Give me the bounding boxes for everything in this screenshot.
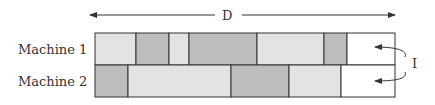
machine-row: Machine 2 xyxy=(18,65,395,97)
job-block xyxy=(189,33,257,65)
idle-block xyxy=(347,33,395,65)
machine-label: Machine 2 xyxy=(18,74,87,89)
job-block xyxy=(257,33,324,65)
machine-row: Machine 1 xyxy=(18,33,395,65)
span-arrow-d: D xyxy=(90,8,395,23)
job-block xyxy=(289,65,341,97)
job-block xyxy=(324,33,347,65)
job-block xyxy=(169,33,189,65)
idle-label: I xyxy=(412,56,417,71)
job-block xyxy=(231,65,289,97)
job-block xyxy=(128,65,231,97)
schedule-diagram: D Machine 1Machine 2 I xyxy=(0,0,435,105)
job-block xyxy=(95,33,136,65)
job-block xyxy=(95,65,128,97)
machine-label: Machine 1 xyxy=(18,42,87,57)
span-label: D xyxy=(222,8,232,23)
job-block xyxy=(136,33,169,65)
